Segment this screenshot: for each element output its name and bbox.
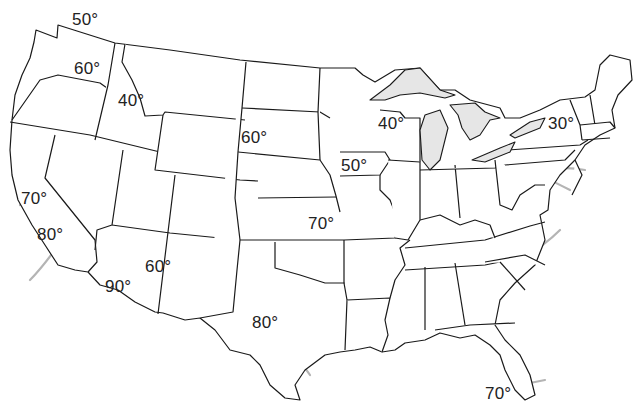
label-texas: 80°	[252, 314, 278, 331]
label-california-north: 70°	[21, 190, 47, 207]
state-borders	[10, 25, 632, 400]
label-idaho: 40°	[118, 92, 144, 109]
label-florida: 70°	[485, 385, 511, 402]
label-washington: 60°	[74, 60, 100, 77]
label-wisconsin: 40°	[378, 115, 404, 132]
label-new-york: 30°	[548, 115, 574, 132]
label-iowa: 50°	[341, 157, 367, 174]
label-wa-north: 50°	[72, 11, 98, 28]
us-outline	[10, 25, 632, 400]
label-arizona-east: 60°	[145, 258, 171, 275]
label-kansas: 70°	[308, 215, 334, 232]
label-california-south: 80°	[37, 226, 63, 243]
label-south-dakota: 60°	[241, 129, 267, 146]
label-arizona: 90°	[105, 278, 131, 295]
